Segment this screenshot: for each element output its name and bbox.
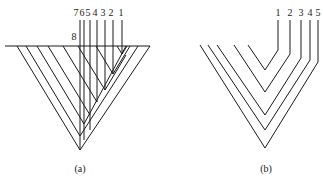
- label-a-3: 3: [101, 7, 106, 18]
- label-b-1: 1: [276, 7, 281, 18]
- label-a-5: 5: [86, 7, 91, 18]
- v-layer-3: [217, 20, 301, 115]
- label-b-4: 4: [308, 7, 313, 18]
- v-layer-5: [200, 20, 318, 148]
- figure-b: 1 2 3 4 5 (b): [200, 7, 321, 175]
- label-a-1: 1: [119, 7, 124, 18]
- label-b-2: 2: [288, 7, 293, 18]
- figure-a: 7 6 5 4 3 2 1 8 (a): [5, 7, 150, 175]
- right-arm-5: [105, 55, 126, 90]
- label-a-4: 4: [93, 7, 98, 18]
- v-layer-1: [248, 20, 278, 70]
- label-a-7: 7: [74, 7, 79, 18]
- diag-layer-6: [78, 46, 105, 90]
- label-a-6: 6: [80, 7, 85, 18]
- caption-b: (b): [260, 163, 272, 175]
- label-a-2: 2: [109, 7, 114, 18]
- v-layer-2: [26, 46, 138, 136]
- diagram-canvas: 7 6 5 4 3 2 1 8 (a) 1 2 3 4 5 (b): [0, 0, 323, 181]
- label-b-5: 5: [316, 7, 321, 18]
- label-a-8: 8: [72, 31, 77, 42]
- caption-a: (a): [74, 163, 85, 175]
- label-b-3: 3: [299, 7, 304, 18]
- v-layer-4: [208, 20, 310, 130]
